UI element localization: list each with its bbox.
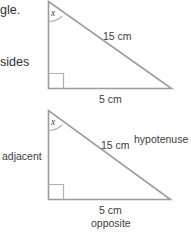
triangle-2-shape [49, 111, 171, 200]
triangle-2-outline [49, 111, 171, 200]
triangle-2-opposite-name-label: opposite [91, 218, 131, 229]
triangle-1-base-length-label: 5 cm [99, 94, 122, 105]
triangle-2-right-angle-icon [49, 185, 64, 200]
text-fragment-top-left: gle. [0, 4, 20, 17]
triangle-1-right-angle-icon [49, 74, 64, 89]
figure-canvas: gle. sides x 15 cm 5 cm x 15 cm hypotenu… [0, 0, 191, 233]
triangle-1-outline [49, 2, 172, 89]
triangle-1-angle-label: x [51, 9, 55, 19]
triangle-2-angle-label: x [51, 118, 55, 128]
triangle-2-hypotenuse-name-label: hypotenuse [134, 134, 188, 145]
triangle-1-shape [49, 2, 172, 89]
triangle-2-hypotenuse-length-label: 15 cm [101, 140, 130, 151]
text-fragment-mid-left: sides [0, 56, 29, 69]
triangle-2-adjacent-name-label: adjacent [2, 151, 42, 162]
triangle-2-base-length-label: 5 cm [99, 205, 122, 216]
triangles-diagram [0, 0, 191, 233]
triangle-1-hypotenuse-length-label: 15 cm [103, 31, 132, 42]
